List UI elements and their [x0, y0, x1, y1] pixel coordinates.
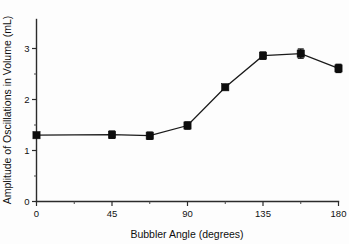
- data-point-marker: [297, 50, 304, 57]
- data-series-group: [33, 49, 342, 139]
- data-point-marker: [146, 132, 153, 139]
- x-tick-label: 45: [107, 208, 118, 219]
- y-tick-label: 3: [24, 43, 29, 54]
- data-point-marker: [184, 122, 191, 129]
- y-tick-label: 1: [24, 145, 29, 156]
- x-axis-title: Bubbler Angle (degrees): [130, 228, 243, 240]
- data-point-marker: [259, 52, 266, 59]
- figure-container: 0123 04590135180 Bubbler Angle (degrees)…: [0, 0, 349, 244]
- data-point-marker: [33, 132, 40, 139]
- x-tick-label: 180: [331, 208, 347, 219]
- y-axis-title: Amplitude of Oscillations in Volume (mL): [1, 16, 13, 205]
- data-point-marker: [222, 84, 229, 91]
- axis-spines: [37, 20, 339, 202]
- x-tick-labels: 04590135180: [34, 208, 347, 219]
- data-point-marker: [108, 131, 115, 138]
- x-tick-label: 0: [34, 208, 39, 219]
- x-tick-label: 90: [182, 208, 193, 219]
- y-tick-label: 2: [24, 94, 29, 105]
- data-markers: [33, 50, 342, 139]
- x-tick-label: 135: [255, 208, 271, 219]
- data-point-marker: [335, 65, 342, 72]
- y-tick-labels: 0123: [24, 43, 29, 207]
- line-chart: 0123 04590135180 Bubbler Angle (degrees)…: [0, 0, 349, 244]
- y-tick-label: 0: [24, 196, 29, 207]
